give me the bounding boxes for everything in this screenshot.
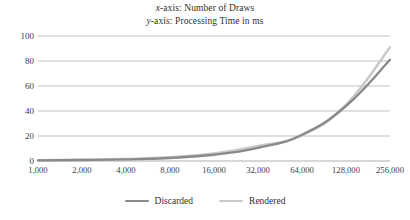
chart-title-line-x: x-axis: Number of Draws (0, 2, 410, 15)
legend-item-discarded[interactable]: Discarded (125, 196, 194, 206)
series-line-discarded (38, 60, 390, 161)
x-tick-label-64000: 64,000 (290, 165, 314, 175)
x-tick-label-256000: 256,000 (376, 165, 404, 175)
y-axis-title-text: -axis: Processing Time in ms (151, 16, 264, 26)
y-tick-label-80: 80 (4, 56, 34, 66)
chart-figure: x-axis: Number of Draws y-axis: Processi… (0, 0, 410, 220)
y-tick-label-60: 60 (4, 81, 34, 91)
chart-legend: DiscardedRendered (0, 196, 410, 206)
y-tick-label-20: 20 (4, 131, 34, 141)
x-tick-label-1000: 1,000 (28, 165, 47, 175)
series-lines (38, 47, 390, 160)
gridlines (38, 36, 390, 161)
x-tick-label-8000: 8,000 (160, 165, 179, 175)
legend-swatch-discarded (125, 200, 149, 203)
legend-label-rendered: Rendered (249, 196, 285, 206)
legend-item-rendered[interactable]: Rendered (219, 196, 285, 206)
plot-canvas (38, 36, 390, 161)
x-tick-label-32000: 32,000 (246, 165, 270, 175)
legend-swatch-rendered (219, 200, 243, 203)
y-tick-label-100: 100 (4, 31, 34, 41)
series-line-rendered (38, 47, 390, 160)
chart-title: x-axis: Number of Draws y-axis: Processi… (0, 2, 410, 28)
x-tick-label-2000: 2,000 (72, 165, 91, 175)
y-tick-label-40: 40 (4, 106, 34, 116)
legend-label-discarded: Discarded (155, 196, 194, 206)
x-tick-label-128000: 128,000 (332, 165, 360, 175)
plot-area (38, 36, 390, 161)
x-tick-label-16000: 16,000 (202, 165, 226, 175)
x-axis-tick-labels: 1,0002,0004,0008,00016,00032,00064,00012… (38, 165, 390, 179)
x-tick-label-4000: 4,000 (116, 165, 135, 175)
chart-title-line-y: y-axis: Processing Time in ms (0, 15, 410, 28)
x-axis-title-text: -axis: Number of Draws (160, 3, 254, 13)
y-axis-tick-labels: 020406080100 (0, 36, 34, 161)
